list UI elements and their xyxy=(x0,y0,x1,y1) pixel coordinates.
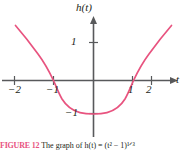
figure-caption-tag: FIGURE 12 xyxy=(0,141,39,150)
figure-caption-body: The graph of h(t) = (t² − 1)¹ᐟ³ xyxy=(41,141,135,150)
x-tick-label-neg1: −1 xyxy=(46,84,59,95)
x-tick-label-2: 2 xyxy=(146,84,152,95)
x-tick-label-neg2: −2 xyxy=(8,84,21,95)
y-axis-arrowhead xyxy=(90,16,97,24)
y-axis xyxy=(89,16,98,137)
graph-canvas xyxy=(0,0,186,151)
figure-container: h(t) t 1 −1 −2 −1 1 2 FIGURE 12 The grap… xyxy=(0,0,186,151)
figure-caption: FIGURE 12 The graph of h(t) = (t² − 1)¹ᐟ… xyxy=(0,140,186,151)
y-axis-label: h(t) xyxy=(76,2,92,13)
x-axis-label: t xyxy=(176,74,179,85)
y-tick-label-1: 1 xyxy=(71,36,77,47)
y-tick-label-neg1: −1 xyxy=(65,107,78,118)
x-tick-label-1: 1 xyxy=(128,84,134,95)
